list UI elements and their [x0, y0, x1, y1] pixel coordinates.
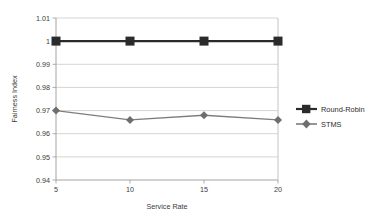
y-tick-label: 0.98: [36, 83, 50, 92]
round-robin-marker: [274, 37, 283, 46]
round-robin-marker: [52, 37, 61, 46]
y-axis-title: Fairness Index: [10, 75, 19, 123]
y-tick-label: 0.94: [36, 176, 50, 185]
round-robin-marker: [126, 37, 135, 46]
y-tick-label: 1: [46, 37, 50, 46]
x-tick-label: 5: [54, 185, 58, 194]
x-axis-title: Service Rate: [146, 202, 187, 211]
y-tick-label: 0.99: [36, 60, 50, 69]
fairness-index-line-chart: 1.01 1 0.99 0.98 0.97 0.96 0.95 0.94 5 1…: [0, 0, 376, 216]
x-tick-label: 20: [274, 185, 282, 194]
legend-square-marker-icon: [302, 105, 310, 113]
legend-item-round-robin[interactable]: Round-Robin: [296, 105, 365, 114]
y-tick-label: 1.01: [36, 14, 50, 23]
legend-label-round-robin: Round-Robin: [321, 105, 365, 114]
y-tick-label: 0.96: [36, 129, 50, 138]
y-tick-label: 0.97: [36, 106, 50, 115]
x-tick-label: 10: [126, 185, 134, 194]
round-robin-marker: [200, 37, 209, 46]
legend-label-stms: STMS: [321, 120, 342, 129]
y-tick-label: 0.95: [36, 153, 50, 162]
x-tick-label: 15: [200, 185, 208, 194]
chart-svg: 1.01 1 0.99 0.98 0.97 0.96 0.95 0.94 5 1…: [0, 0, 376, 216]
